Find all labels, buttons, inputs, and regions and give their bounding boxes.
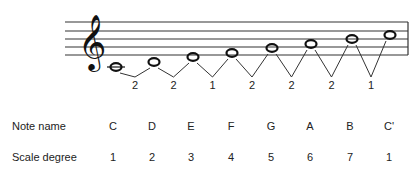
note-name-cell: D: [148, 120, 156, 132]
note-E: [188, 53, 199, 61]
interval-labels: 2212221: [132, 79, 374, 91]
scale-degree-cell: 1: [386, 151, 392, 163]
interval-label: 1: [368, 79, 374, 91]
scale-degree-cell: 1: [110, 151, 116, 163]
interval-label: 2: [170, 79, 176, 91]
note-F: [227, 49, 238, 57]
interval-label: 2: [328, 79, 334, 91]
note-name-label: Note name: [12, 120, 66, 132]
treble-clef-icon: 𝄞: [78, 13, 106, 72]
note-name-cell: F: [228, 120, 235, 132]
note-name-cell: E: [187, 120, 194, 132]
scale-degree-cell: 4: [228, 151, 234, 163]
note-G: [267, 44, 278, 52]
note-name-cell: C': [384, 120, 394, 132]
note-name-cell: A: [306, 120, 313, 132]
interval-label: 2: [249, 79, 255, 91]
note-name-cell: G: [267, 120, 276, 132]
note-C: [107, 63, 125, 71]
note-name-cell: C: [109, 120, 117, 132]
note-C-prime: [385, 31, 396, 39]
scale-degree-cell: 3: [188, 151, 194, 163]
interval-label: 1: [209, 79, 215, 91]
note-D: [149, 58, 160, 66]
scale-degree-cell: 6: [307, 151, 313, 163]
scale-degree-cell: 7: [347, 151, 353, 163]
interval-label: 2: [132, 79, 138, 91]
notes: [107, 31, 396, 71]
scale-degree-cell: 5: [268, 151, 274, 163]
svg-text:𝄞: 𝄞: [78, 13, 106, 72]
scale-degree-label: Scale degree: [12, 151, 77, 163]
interval-label: 2: [288, 79, 294, 91]
scale-degree-cell: 2: [149, 151, 155, 163]
staff-diagram: 𝄞 2212221: [0, 0, 418, 110]
note-name-cell: B: [346, 120, 353, 132]
